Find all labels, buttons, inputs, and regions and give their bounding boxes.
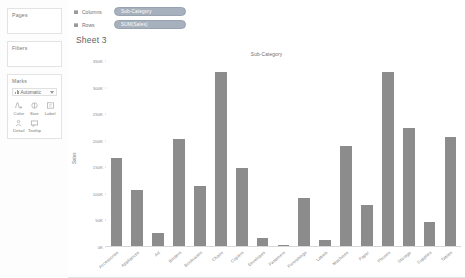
x-axis-label-cell[interactable]: Appliances xyxy=(127,249,148,278)
bar[interactable] xyxy=(236,168,248,247)
x-axis-label-cell[interactable]: Machines xyxy=(336,249,357,278)
bar[interactable] xyxy=(340,146,352,247)
bar-cell[interactable] xyxy=(440,61,461,247)
shelf-container: Columns Sub-Category Rows SUM(Sales) xyxy=(68,0,465,31)
bar-cell[interactable] xyxy=(315,61,336,247)
x-axis-label-cell[interactable]: Art xyxy=(148,249,169,278)
marks-type-label: Automatic xyxy=(21,90,41,95)
bar-cell[interactable] xyxy=(148,61,169,247)
marks-type-current: Automatic xyxy=(15,90,41,95)
x-axis-tick-label: Labels xyxy=(315,250,328,262)
bar[interactable] xyxy=(424,222,436,247)
columns-shelf[interactable]: Columns Sub-Category xyxy=(74,7,459,16)
tooltip-icon xyxy=(30,119,39,128)
bar-cell[interactable] xyxy=(357,61,378,247)
pill-sub-category[interactable]: Sub-Category xyxy=(114,7,186,16)
bar-cell[interactable] xyxy=(419,61,440,247)
bar-cell[interactable] xyxy=(398,61,419,247)
tableau-worksheet: Pages Filters Marks Automatic xyxy=(0,0,465,278)
marks-card[interactable]: Marks Automatic Color xyxy=(7,74,62,139)
x-axis-label-cell[interactable]: Furnishings xyxy=(294,249,315,278)
bar-cell[interactable] xyxy=(106,61,127,247)
bar[interactable] xyxy=(382,72,394,247)
marks-button-detail[interactable]: Detail xyxy=(11,117,27,135)
rows-shelf-icon xyxy=(74,23,78,27)
marks-button-tooltip[interactable]: Tooltip xyxy=(27,117,43,135)
color-palette-icon xyxy=(14,101,23,110)
bar-cell[interactable] xyxy=(377,61,398,247)
bar-cell[interactable] xyxy=(273,61,294,247)
chevron-down-icon[interactable] xyxy=(50,91,54,94)
bar-cell[interactable] xyxy=(190,61,211,247)
y-axis-title: Sales xyxy=(72,153,77,165)
bar-mark-icon xyxy=(15,90,19,94)
bar-cell[interactable] xyxy=(231,61,252,247)
x-axis-tick-label: Tables xyxy=(440,250,453,262)
y-axis-tick-label: 50K xyxy=(95,218,103,223)
x-axis-tick-label: Paper xyxy=(358,250,370,262)
y-axis-tick-label: 300K xyxy=(93,85,103,90)
bar[interactable] xyxy=(152,233,164,247)
x-axis-label-cell[interactable]: Chairs xyxy=(210,249,231,278)
x-axis-label-cell[interactable]: Supplies xyxy=(419,249,440,278)
marks-button-size-label: Size xyxy=(30,111,39,116)
x-axis-tick-label: Storage xyxy=(397,250,412,264)
bar-cell[interactable] xyxy=(294,61,315,247)
bar[interactable] xyxy=(194,186,206,247)
bar[interactable] xyxy=(111,158,123,247)
x-axis-tick-label: Accessories xyxy=(98,250,120,269)
y-axis-tick-label: 150K xyxy=(93,165,103,170)
marks-button-size[interactable]: Size xyxy=(27,99,43,117)
pages-card-title: Pages xyxy=(8,9,61,21)
filters-card[interactable]: Filters xyxy=(7,41,62,67)
marks-buttons: Color Size xyxy=(8,99,61,134)
left-sidebar: Pages Filters Marks Automatic xyxy=(0,0,68,278)
marks-button-label[interactable]: Label xyxy=(42,99,58,117)
bar-cell[interactable] xyxy=(210,61,231,247)
marks-type-dropdown[interactable]: Automatic xyxy=(12,88,57,96)
columns-shelf-icon xyxy=(74,10,78,14)
filters-card-title: Filters xyxy=(8,42,61,54)
bar[interactable] xyxy=(131,190,143,247)
bar[interactable] xyxy=(403,128,415,247)
bar[interactable] xyxy=(173,139,185,247)
marks-button-color[interactable]: Color xyxy=(11,99,27,117)
x-axis-tick-label: Copiers xyxy=(230,250,245,264)
bar-cell[interactable] xyxy=(336,61,357,247)
plot-area: 350K300K250K200K150K100K50K0K xyxy=(106,61,461,247)
x-axis-labels: AccessoriesAppliancesArtBindersBookcases… xyxy=(106,249,461,278)
bar[interactable] xyxy=(298,198,310,247)
x-axis-label-cell[interactable]: Tables xyxy=(440,249,461,278)
sheet-title[interactable]: Sheet 3 xyxy=(68,31,465,45)
x-axis-tick-label: Chairs xyxy=(211,250,224,262)
x-axis-line xyxy=(106,246,461,247)
bar[interactable] xyxy=(445,137,457,247)
bar[interactable] xyxy=(215,72,227,247)
x-axis-tick-label: Phones xyxy=(376,250,391,264)
x-axis-label-cell[interactable]: Bookcases xyxy=(190,249,211,278)
y-axis-tick-label: 0K xyxy=(98,245,103,250)
bar-series xyxy=(106,61,461,247)
worksheet-main: Columns Sub-Category Rows SUM(Sales) She… xyxy=(68,0,465,278)
bar-cell[interactable] xyxy=(252,61,273,247)
label-icon xyxy=(46,101,55,110)
rows-shelf-label: Rows xyxy=(82,22,110,28)
y-axis-tick-label: 200K xyxy=(93,138,103,143)
marks-card-title: Marks xyxy=(8,75,61,87)
x-axis-tick-label: Binders xyxy=(167,250,182,264)
pages-card[interactable]: Pages xyxy=(7,8,62,34)
bar[interactable] xyxy=(361,205,373,247)
x-axis-label-cell[interactable]: Storage xyxy=(398,249,419,278)
y-axis-tick-label: 350K xyxy=(93,59,103,64)
bar-cell[interactable] xyxy=(127,61,148,247)
x-axis-label-cell[interactable]: Phones xyxy=(377,249,398,278)
marks-button-color-label: Color xyxy=(13,111,24,116)
x-axis-label-cell[interactable]: Paper xyxy=(357,249,378,278)
marks-button-detail-label: Detail xyxy=(13,128,25,133)
pill-sum-sales[interactable]: SUM(Sales) xyxy=(114,20,186,29)
x-axis-tick-label: Supplies xyxy=(416,250,432,265)
rows-shelf[interactable]: Rows SUM(Sales) xyxy=(74,20,459,29)
bar-cell[interactable] xyxy=(169,61,190,247)
size-icon xyxy=(30,101,39,110)
y-axis-tick-label: 100K xyxy=(93,191,103,196)
